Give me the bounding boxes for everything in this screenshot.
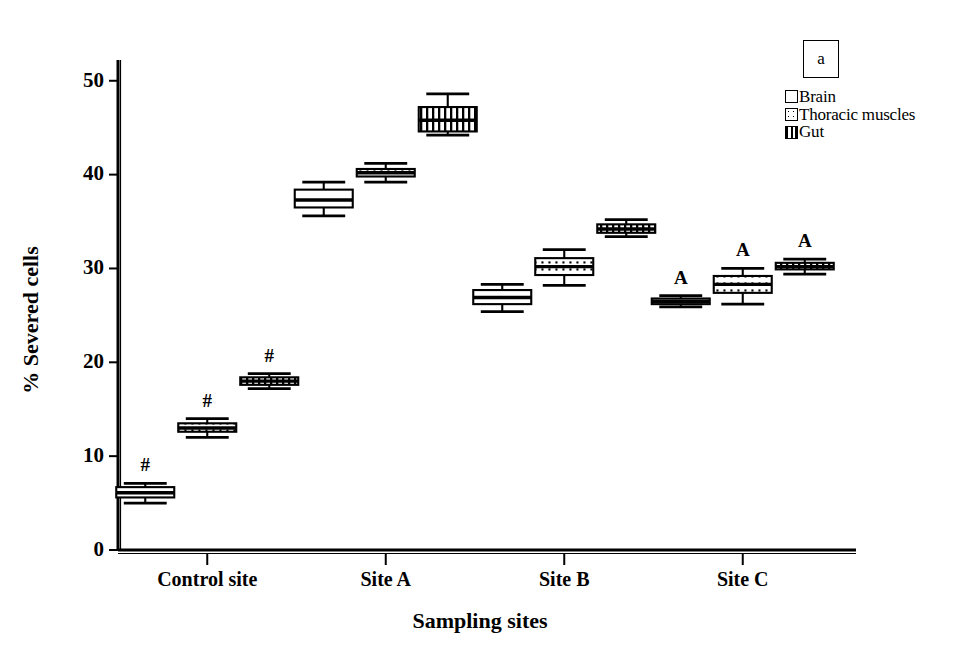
legend-swatch-brain [785,90,798,103]
legend-item-gut: Gut [785,123,915,141]
y-tick-label: 0 [94,537,105,561]
x-tick-label: Control site [157,568,257,590]
y-tick-label: 10 [83,443,104,467]
legend-label-gut: Gut [799,123,824,141]
box-plot-gut-site-c: A [776,230,834,274]
box-plots: #A#A#A [116,94,834,503]
box-plot-brain-control-site: # [116,454,174,503]
legend-item-brain: Brain [785,88,915,106]
x-axis-title: Sampling sites [412,608,548,633]
significance-annotation: A [798,230,812,251]
x-tick-label: Site A [360,568,411,590]
y-tick-label: 40 [83,161,104,185]
boxplot-figure: 01020304050 Control siteSite ASite BSite… [0,0,971,664]
box-plot-gut-control-site: # [240,345,298,389]
box-plot-thoracic-muscles-site-b [535,250,593,286]
significance-annotation: A [736,239,750,260]
legend-label-brain: Brain [799,88,836,106]
legend-item-thoracic-muscles: Thoracic muscles [785,106,915,124]
significance-annotation: # [203,390,213,411]
x-tick-label: Site C [717,568,769,590]
y-axis-title: % Severed cells [18,246,43,394]
box-plot-gut-site-b [597,220,655,237]
y-tick-label: 30 [83,255,104,279]
box-plot-thoracic-muscles-site-a [357,163,415,182]
box-plot-brain-site-b [473,284,531,311]
significance-annotation: # [141,454,151,475]
axes [118,60,856,554]
box-plot-brain-site-c: A [652,267,710,307]
legend: Brain Thoracic muscles Gut [785,88,915,141]
y-tick-label: 20 [83,349,104,373]
legend-label-thoracic-muscles: Thoracic muscles [799,106,915,124]
y-axis-ticks: 01020304050 [83,68,118,561]
box-plot-brain-site-a [295,182,353,216]
x-tick-label: Site B [539,568,590,590]
panel-label: a [803,40,839,78]
significance-annotation: # [265,345,275,366]
legend-swatch-thoracic-muscles [785,108,798,121]
box-plot-thoracic-muscles-site-c: A [714,239,772,304]
legend-swatch-gut [785,126,798,139]
box-plot-thoracic-muscles-control-site: # [178,390,236,438]
x-axis-ticks: Control siteSite ASite BSite C [157,554,768,590]
box-plot-gut-site-a [419,94,477,135]
y-tick-label: 50 [83,68,104,92]
significance-annotation: A [674,267,688,288]
